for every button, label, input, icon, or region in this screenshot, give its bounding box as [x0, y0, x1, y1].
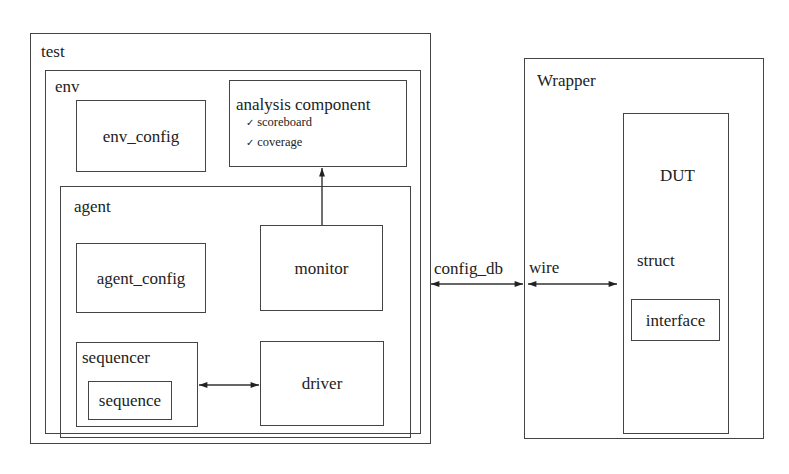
config-db-label: config_db — [434, 260, 503, 277]
scoreboard-item: ✓ scoreboard — [246, 116, 312, 129]
env-config-box: env_config — [76, 100, 206, 172]
agent-config-label: agent_config — [97, 270, 186, 287]
agent-config-box: agent_config — [76, 243, 206, 313]
sequencer-label: sequencer — [82, 349, 150, 366]
env-label: env — [55, 78, 80, 95]
driver-box: driver — [260, 341, 384, 426]
struct-label: struct — [637, 252, 675, 269]
dut-label: DUT — [660, 167, 695, 184]
interface-label: interface — [646, 312, 705, 329]
wrapper-label: Wrapper — [537, 72, 596, 89]
agent-label: agent — [74, 198, 111, 215]
env-config-label: env_config — [103, 128, 179, 145]
sequence-box: sequence — [88, 381, 172, 420]
scoreboard-label: scoreboard — [257, 115, 312, 129]
test-label: test — [41, 43, 65, 60]
monitor-label: monitor — [295, 260, 349, 277]
sequence-label: sequence — [99, 392, 161, 409]
monitor-box: monitor — [260, 225, 383, 311]
analysis-component-label: analysis component — [236, 96, 371, 113]
check-icon: ✓ — [246, 117, 254, 128]
coverage-label: coverage — [257, 135, 302, 149]
driver-label: driver — [302, 375, 343, 392]
dut-box — [623, 113, 729, 434]
analysis-component-box: analysis component ✓ scoreboard ✓ covera… — [229, 80, 407, 167]
coverage-item: ✓ coverage — [246, 136, 302, 149]
wire-label: wire — [529, 259, 559, 276]
check-icon: ✓ — [246, 137, 254, 148]
interface-box: interface — [631, 299, 720, 341]
